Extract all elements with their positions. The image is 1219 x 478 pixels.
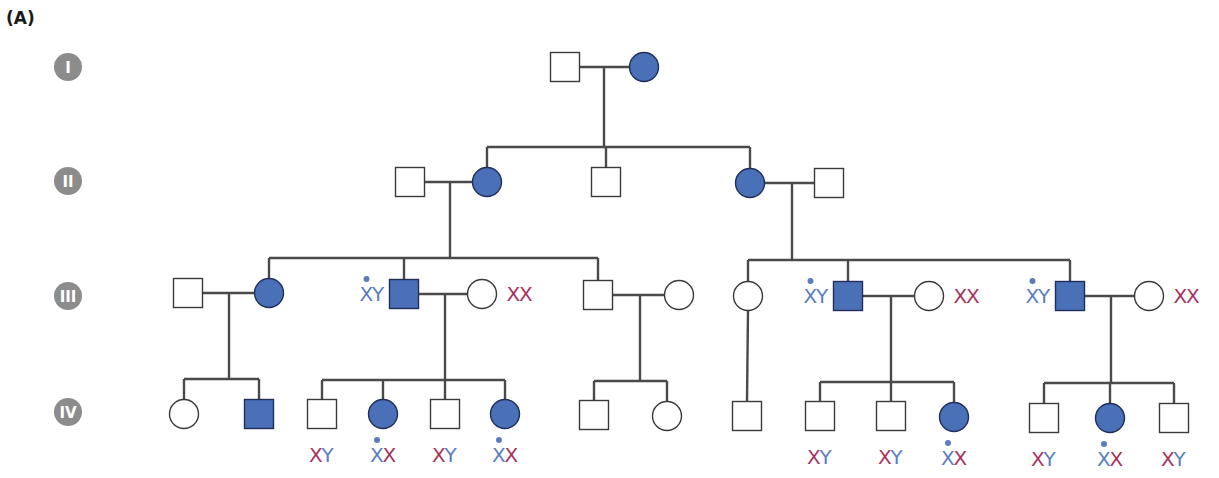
genotype-label: XY xyxy=(1161,447,1187,471)
genotype-label: XY xyxy=(432,443,458,467)
affected-female-symbol xyxy=(940,403,969,432)
unaffected-male-symbol xyxy=(806,402,835,431)
unaffected-female-symbol xyxy=(665,281,694,310)
unaffected-male-symbol xyxy=(1160,404,1189,433)
affected-male-symbol xyxy=(1056,282,1085,311)
unaffected-male-symbol xyxy=(431,400,460,429)
y-chromosome: Y xyxy=(1173,447,1187,471)
mutation-dot-icon xyxy=(1030,278,1036,284)
mutation-dot-icon xyxy=(374,437,380,443)
relationship-lines xyxy=(184,67,1174,404)
affected-female-symbol xyxy=(736,169,765,198)
affected-female-symbol xyxy=(491,400,520,429)
unaffected-male-symbol xyxy=(733,402,762,431)
pedigree-diagram: IIIIIIIV XYXXXYXXXYXXXYXXXYXXXYXYXXXYXXX… xyxy=(0,0,1219,478)
x-chromosome: X xyxy=(966,284,980,308)
unaffected-male-symbol xyxy=(308,400,337,429)
y-chromosome: Y xyxy=(444,443,458,467)
unaffected-female-symbol xyxy=(734,282,763,311)
y-chromosome: Y xyxy=(1043,447,1057,471)
unaffected-female-symbol xyxy=(170,400,199,429)
generation-badge-iv: IV xyxy=(54,398,82,426)
x-chromosome: X xyxy=(1186,284,1200,308)
genotype-label: XX xyxy=(507,282,534,306)
affected-female-symbol xyxy=(369,400,398,429)
generation-badges: IIIIIIIV xyxy=(54,53,82,426)
unaffected-male-symbol xyxy=(396,168,425,197)
genotype-label: XY xyxy=(1026,278,1052,308)
genotype-label: XY xyxy=(804,278,830,308)
svg-text:II: II xyxy=(62,173,73,191)
generation-badge-iii: III xyxy=(54,282,82,310)
svg-text:IV: IV xyxy=(59,404,77,422)
affected-male-symbol xyxy=(390,280,419,309)
mutation-dot-icon xyxy=(364,276,370,282)
unaffected-female-symbol xyxy=(653,402,682,431)
unaffected-female-symbol xyxy=(1135,282,1164,311)
mutation-dot-icon xyxy=(945,440,951,446)
genotype-label: XX xyxy=(492,437,519,467)
svg-text:I: I xyxy=(65,59,71,77)
affected-male-symbol xyxy=(245,400,274,429)
genotype-label: XX xyxy=(1097,441,1124,471)
mutation-dot-icon xyxy=(1101,441,1107,447)
x-chromosome: X xyxy=(383,443,397,467)
affected-female-symbol xyxy=(630,53,659,82)
unaffected-male-symbol xyxy=(174,279,203,308)
individuals xyxy=(170,53,1189,433)
y-chromosome: Y xyxy=(321,443,335,467)
genotype-label: XX xyxy=(370,437,397,467)
genotype-label: XY xyxy=(878,445,904,469)
x-chromosome: X xyxy=(519,282,533,306)
generation-badge-ii: II xyxy=(54,167,82,195)
unaffected-male-symbol xyxy=(580,401,609,430)
affected-female-symbol xyxy=(255,279,284,308)
unaffected-male-symbol xyxy=(584,281,613,310)
mutation-dot-icon xyxy=(496,437,502,443)
y-chromosome: Y xyxy=(1037,284,1051,308)
unaffected-male-symbol xyxy=(1030,404,1059,433)
y-chromosome: Y xyxy=(819,445,833,469)
genotype-label: XX xyxy=(1174,284,1201,308)
affected-male-symbol xyxy=(834,282,863,311)
affected-female-symbol xyxy=(1096,404,1125,433)
genotype-label: XY xyxy=(309,443,335,467)
unaffected-female-symbol xyxy=(915,282,944,311)
x-chromosome: X xyxy=(1110,447,1124,471)
y-chromosome: Y xyxy=(890,445,904,469)
unaffected-male-symbol xyxy=(592,168,621,197)
unaffected-male-symbol xyxy=(815,169,844,198)
unaffected-male-symbol xyxy=(551,53,580,82)
x-chromosome: X xyxy=(505,443,519,467)
y-chromosome: Y xyxy=(815,284,829,308)
genotype-label: XX xyxy=(954,284,981,308)
genotype-label: XX xyxy=(941,440,968,470)
descent-line xyxy=(747,311,748,402)
generation-badge-i: I xyxy=(54,53,82,81)
y-chromosome: Y xyxy=(371,282,385,306)
genotype-label: XY xyxy=(1031,447,1057,471)
genotype-label: XY xyxy=(807,445,833,469)
unaffected-female-symbol xyxy=(468,280,497,309)
unaffected-male-symbol xyxy=(877,402,906,431)
mutation-dot-icon xyxy=(808,278,814,284)
genotype-label: XY xyxy=(360,276,386,306)
x-chromosome: X xyxy=(954,446,968,470)
svg-text:III: III xyxy=(60,288,77,306)
affected-female-symbol xyxy=(473,168,502,197)
